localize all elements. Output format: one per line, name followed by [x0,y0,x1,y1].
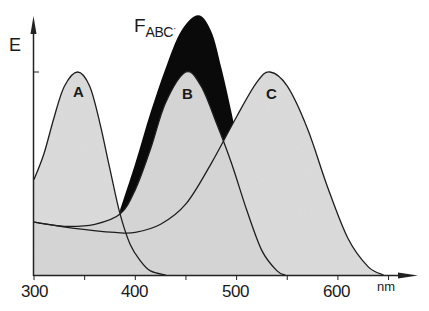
f-abc-label: FABC· [134,16,176,39]
f-abc-label-main: F [134,15,146,36]
curve-b-label: B [182,86,193,101]
x-tick-label-400: 400 [121,283,148,300]
curve-c-label: C [266,86,277,101]
spectra-chart [0,0,429,311]
x-tick-label-300: 300 [21,283,48,300]
x-tick-label-500: 500 [222,283,249,300]
x-unit-label: nm [377,280,395,293]
y-axis-label: E [9,36,21,54]
f-abc-label-sub: ABC [146,24,173,40]
x-tick-label-600: 600 [323,283,350,300]
y-axis-arrow [31,16,37,34]
curve-a-label: A [73,84,84,99]
x-axis-arrow [398,273,418,279]
